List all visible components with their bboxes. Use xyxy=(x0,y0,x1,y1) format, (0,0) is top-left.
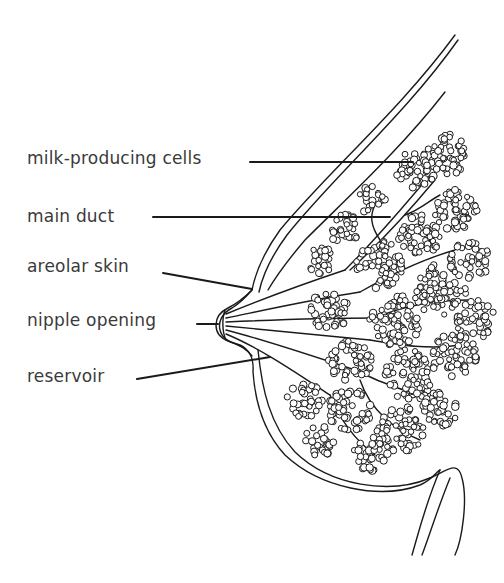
leader-line-areolar-skin xyxy=(163,273,252,289)
label-main-duct: main duct xyxy=(27,206,114,226)
label-reservoir: reservoir xyxy=(27,366,104,386)
label-milk-producing-cells: milk-producing cells xyxy=(27,148,202,168)
label-nipple-opening: nipple opening xyxy=(27,310,156,330)
breast-anatomy-diagram: milk-producing cells main duct areolar s… xyxy=(0,0,504,583)
leader-line-reservoir xyxy=(137,357,270,379)
label-areolar-skin: areolar skin xyxy=(27,256,129,276)
anatomy-illustration xyxy=(0,0,504,583)
